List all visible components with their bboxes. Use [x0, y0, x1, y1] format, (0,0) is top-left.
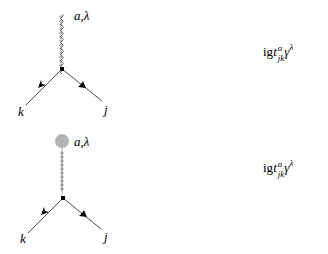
- arrow-out-icon: [78, 81, 86, 88]
- fermion-in-line: [28, 198, 63, 233]
- vertex-graphic: [0, 0, 200, 125]
- feynman-rule-1: igtajkγλ: [263, 42, 293, 63]
- vertex-dot: [60, 67, 64, 71]
- vertex-dot: [61, 196, 65, 200]
- background-field-blob: [55, 134, 69, 148]
- rule-generator: t: [273, 44, 277, 59]
- vertex-graphic: [0, 125, 200, 254]
- fermion-in-line: [26, 69, 62, 105]
- gluon-line: [61, 148, 63, 195]
- gluon-line: [60, 14, 64, 74]
- rule-prefix: ig: [263, 160, 273, 175]
- feynman-diagram-gluon-vertex: a,λ k j: [0, 0, 200, 125]
- rule-prefix: ig: [263, 44, 273, 59]
- feynman-rule-2: igtajkγλ: [263, 158, 293, 179]
- out-momentum-label: j: [104, 102, 108, 118]
- arrow-out-icon: [79, 210, 87, 217]
- rule-gamma-sup: λ: [289, 42, 293, 52]
- rule-generator: t: [273, 160, 277, 175]
- in-momentum-label: k: [18, 104, 24, 120]
- boson-label: a,λ: [74, 8, 89, 24]
- rule-gamma-sup: λ: [289, 158, 293, 168]
- in-momentum-label: k: [20, 231, 26, 247]
- out-momentum-label: j: [104, 229, 108, 245]
- feynman-diagram-background-gluon-vertex: a,λ k j: [0, 125, 200, 250]
- boson-label: a,λ: [74, 134, 89, 150]
